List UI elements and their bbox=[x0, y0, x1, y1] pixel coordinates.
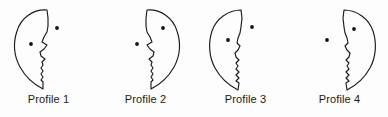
profile-3-label: Profile 3 bbox=[197, 92, 294, 106]
profile-3-outer-dot bbox=[250, 25, 254, 29]
profile-3-eye-dot bbox=[226, 38, 230, 42]
profile-1-drawing bbox=[0, 2, 97, 92]
profile-3-drawing bbox=[197, 2, 294, 92]
profile-4-outer-dot bbox=[325, 38, 329, 42]
profile-1-outer-dot bbox=[55, 26, 59, 30]
profile-1-eye-dot bbox=[29, 42, 33, 46]
profile-1-outline bbox=[15, 10, 48, 89]
profile-2-outer-dot bbox=[135, 42, 139, 46]
profile-4-drawing bbox=[291, 2, 388, 92]
profile-item: Profile 3 bbox=[197, 0, 294, 117]
profile-4-outline bbox=[343, 10, 375, 90]
profile-item: Profile 2 bbox=[97, 0, 194, 117]
profile-2-eye-dot bbox=[161, 26, 165, 30]
profile-2-label: Profile 2 bbox=[97, 92, 194, 106]
profile-2-drawing bbox=[97, 2, 194, 92]
face-profile-comparison-figure: Profile 1 Profile 2 Profile 3 bbox=[0, 0, 388, 117]
profile-1-label: Profile 1 bbox=[0, 92, 97, 106]
profile-item: Profile 4 bbox=[291, 0, 388, 117]
profile-4-eye-dot bbox=[352, 27, 356, 31]
profile-2-outline bbox=[146, 10, 179, 89]
profile-4-label: Profile 4 bbox=[291, 92, 388, 106]
profile-3-outline bbox=[210, 10, 242, 90]
profile-item: Profile 1 bbox=[0, 0, 97, 117]
